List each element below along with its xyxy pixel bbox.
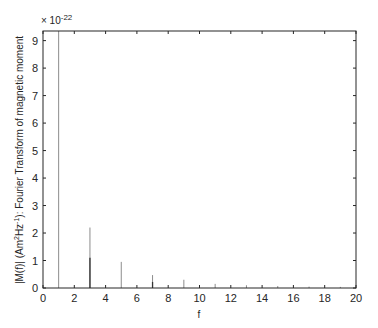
x-tick-label: 16 (287, 292, 299, 304)
y-tick-label: 2 (32, 227, 38, 239)
fourier-chart: 02468101214161820 0123456789 × 10-22 f |… (0, 0, 378, 328)
x-tick-label: 10 (193, 292, 205, 304)
y-tick-label: 0 (32, 282, 38, 294)
y-tick-label: 5 (32, 145, 38, 157)
x-tick-label: 18 (319, 292, 331, 304)
y-tick-label: 4 (32, 172, 38, 184)
x-tick-label: 2 (71, 292, 77, 304)
y-tick-label: 3 (32, 200, 38, 212)
x-tick-label: 6 (134, 292, 140, 304)
x-tick-label: 8 (165, 292, 171, 304)
y-tick-label: 8 (32, 62, 38, 74)
y-tick-label: 1 (32, 255, 38, 267)
y-axis-label: |M(f)| (Am2Hz-1): Fourier Transform of m… (13, 36, 25, 284)
y-ticks: 0123456789 (32, 35, 356, 294)
x-tick-label: 20 (350, 292, 362, 304)
y-tick-label: 6 (32, 117, 38, 129)
x-tick-label: 12 (225, 292, 237, 304)
y-tick-label: 9 (32, 35, 38, 47)
x-tick-label: 14 (256, 292, 268, 304)
x-axis-label: f (198, 309, 201, 320)
x-ticks: 02468101214161820 (40, 31, 362, 304)
x-tick-label: 4 (103, 292, 109, 304)
y-tick-label: 7 (32, 90, 38, 102)
x-tick-label: 0 (40, 292, 46, 304)
y-exponent-label: × 10-22 (41, 13, 73, 26)
stems-light (59, 31, 341, 288)
